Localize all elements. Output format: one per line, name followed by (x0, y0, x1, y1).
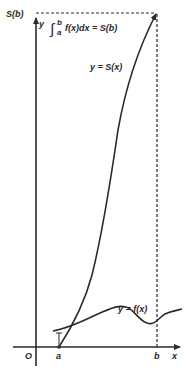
x-tick-a: a (56, 351, 61, 361)
curve-S-label: y = S(x) (89, 62, 122, 72)
origin-label: O (25, 351, 32, 361)
integral-upper: b (57, 18, 62, 27)
x-axis-label: x (171, 351, 178, 361)
integral-lower: a (57, 28, 62, 37)
point-a (57, 345, 61, 349)
integral-sign: ∫ (49, 20, 56, 38)
integral-diagram: S(b) y ∫ b a f(x)dx = S(b) y = S(x) y = … (0, 0, 186, 371)
curve-f-label: y = f(x) (117, 304, 147, 314)
integral-body: f(x)dx = S(b) (65, 23, 117, 33)
y-axis-label: y (38, 19, 45, 29)
x-tick-b: b (154, 351, 160, 361)
y-tick-sb: S(b) (6, 9, 24, 19)
